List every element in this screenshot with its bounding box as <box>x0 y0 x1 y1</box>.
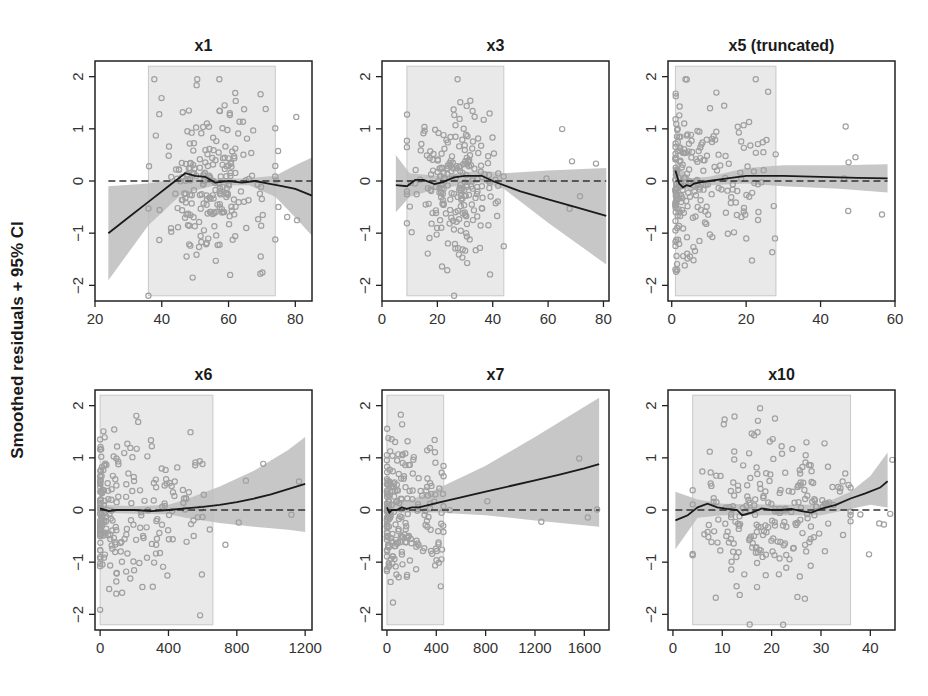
x-tick-label: 20 <box>429 310 446 327</box>
panel-x1: x120406080−2−1012 <box>69 37 312 327</box>
x-tick-label: 20 <box>738 310 755 327</box>
y-tick-label: −2 <box>69 277 86 294</box>
x-tick-label: 0 <box>378 310 386 327</box>
y-tick-label: 1 <box>642 125 659 133</box>
x-tick-label: 0 <box>669 639 677 656</box>
x-tick-label: 40 <box>484 310 501 327</box>
x-tick-label: 1200 <box>518 639 551 656</box>
y-tick-label: 0 <box>356 177 373 185</box>
y-tick-label: −2 <box>356 606 373 623</box>
y-tick-label: 0 <box>642 506 659 514</box>
y-tick-label: 2 <box>642 72 659 80</box>
x-tick-label: 0 <box>96 639 104 656</box>
x-tick-label: 40 <box>812 310 829 327</box>
y-tick-label: 0 <box>69 506 86 514</box>
panel-x3: x3020406080−2−1012 <box>356 37 612 327</box>
x-tick-label: 1600 <box>568 639 601 656</box>
y-tick-label: −1 <box>642 554 659 571</box>
x-tick-label: 800 <box>473 639 498 656</box>
x-tick-label: 60 <box>887 310 904 327</box>
y-tick-label: 2 <box>69 72 86 80</box>
figure-canvas: x120406080−2−1012x3020406080−2−1012x5 (t… <box>0 0 928 696</box>
panel-x7: x7040080012001600−2−1012 <box>356 366 609 656</box>
y-tick-label: −2 <box>642 606 659 623</box>
x-tick-label: 80 <box>287 310 304 327</box>
panel-title: x6 <box>195 366 213 383</box>
x-tick-label: 1200 <box>288 639 321 656</box>
y-tick-label: 1 <box>69 125 86 133</box>
x-tick-label: 400 <box>156 639 181 656</box>
panel-x6: x604008001200−2−1012 <box>69 366 322 656</box>
panel-x10: x10010203040−2−1012 <box>642 366 895 656</box>
panel-x5: x5 (truncated)0204060−2−1012 <box>642 37 903 327</box>
x-tick-label: 0 <box>383 639 391 656</box>
y-tick-label: −1 <box>642 225 659 242</box>
y-tick-label: 1 <box>356 125 373 133</box>
y-tick-label: 0 <box>356 506 373 514</box>
y-tick-label: −1 <box>356 225 373 242</box>
y-tick-label: −2 <box>356 277 373 294</box>
y-tick-label: −2 <box>69 606 86 623</box>
x-tick-label: 60 <box>540 310 557 327</box>
panel-title: x1 <box>195 37 213 54</box>
x-tick-label: 40 <box>862 639 879 656</box>
y-tick-label: −1 <box>356 554 373 571</box>
y-tick-label: 2 <box>642 401 659 409</box>
x-tick-label: 80 <box>595 310 612 327</box>
y-tick-label: 1 <box>642 454 659 462</box>
y-tick-label: −1 <box>69 554 86 571</box>
y-tick-label: −2 <box>642 277 659 294</box>
x-tick-label: 800 <box>224 639 249 656</box>
x-tick-label: 40 <box>153 310 170 327</box>
y-tick-label: 0 <box>69 177 86 185</box>
y-tick-label: 1 <box>69 454 86 462</box>
y-tick-label: 1 <box>356 454 373 462</box>
y-tick-label: 2 <box>356 401 373 409</box>
x-tick-label: 60 <box>220 310 237 327</box>
panel-title: x10 <box>768 366 795 383</box>
x-tick-label: 30 <box>813 639 830 656</box>
y-tick-label: −1 <box>69 225 86 242</box>
panel-title: x3 <box>487 37 505 54</box>
x-tick-label: 20 <box>87 310 104 327</box>
y-tick-label: 2 <box>356 72 373 80</box>
x-tick-label: 10 <box>714 639 731 656</box>
x-tick-label: 0 <box>668 310 676 327</box>
panel-title: x7 <box>487 366 505 383</box>
x-tick-label: 400 <box>424 639 449 656</box>
x-tick-label: 20 <box>763 639 780 656</box>
y-tick-label: 0 <box>642 177 659 185</box>
y-tick-label: 2 <box>69 401 86 409</box>
panel-title: x5 (truncated) <box>729 37 835 54</box>
